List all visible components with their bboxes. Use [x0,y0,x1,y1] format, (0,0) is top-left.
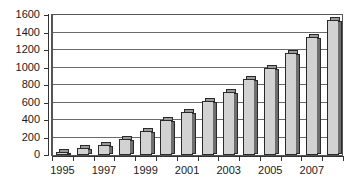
x-axis-tick-mark [73,156,74,161]
bar-slot [219,15,240,155]
bar-side-face [171,121,175,154]
bar-top-face [163,117,173,121]
bar[interactable] [160,120,172,155]
bar[interactable] [285,53,297,155]
y-axis-tick-mark [44,138,49,139]
bar-slot [157,15,178,155]
bar-side-face [151,132,155,154]
y-axis-tick-mark [44,50,49,51]
bar-slot [53,15,74,155]
x-axis-tick-label: 1997 [92,164,116,176]
bar-side-face [130,140,134,154]
x-axis-tick-label: 2003 [216,164,240,176]
x-axis-tick-label: 2001 [175,164,199,176]
bar-slot [136,15,157,155]
bar[interactable] [140,131,152,155]
y-axis-tick-mark [44,33,49,34]
bar-side-face [234,93,238,154]
y-axis-tick-mark [44,155,49,156]
bar-top-face [246,76,256,80]
bar-top-face [309,34,319,38]
y-axis-tick-label: 1600 [16,9,40,20]
bar-top-face [59,149,69,153]
x-axis-tick-label: 2007 [300,164,324,176]
x-axis-tick-mark [260,156,261,161]
bar-side-face [192,113,196,154]
bar-slot [115,15,136,155]
bar-top-face [205,98,215,102]
bar-slot [261,15,282,155]
bar-side-face [109,146,113,155]
bar[interactable] [77,148,89,155]
x-axis-tick-mark [301,156,302,161]
y-axis-tick-mark [44,120,49,121]
bar[interactable] [327,20,339,155]
x-axis-tick-mark [114,156,115,161]
y-axis-tick-label: 0 [34,149,40,160]
bar-top-face [80,145,90,149]
bar[interactable] [56,152,68,156]
bar-top-face [330,17,340,21]
bar[interactable] [98,145,110,156]
bar-slot [302,15,323,155]
x-axis-tick-mark [177,156,178,161]
bar-side-face [296,54,300,154]
y-axis-tick-label: 1000 [16,62,40,73]
x-axis-tick-mark [52,156,53,161]
bar-side-face [67,153,71,155]
x-axis-tick-mark [239,156,240,161]
bar[interactable] [202,101,214,155]
bar-slot [178,15,199,155]
y-axis-tick-label: 400 [22,114,40,125]
x-axis-tick-mark [198,156,199,161]
bar-top-face [267,65,277,69]
x-axis-tick-mark [343,156,344,161]
y-axis-tick-mark [44,103,49,104]
bar-side-face [317,38,321,154]
x-axis-tick-label: 1999 [133,164,157,176]
bar-slot [74,15,95,155]
bar-slot [282,15,303,155]
plot-area [52,14,343,156]
x-axis-tick-label: 2005 [258,164,282,176]
bar-top-face [184,109,194,113]
bar-top-face [143,128,153,132]
bar-slot [95,15,116,155]
bar[interactable] [243,79,255,155]
x-axis-tick-mark [281,156,282,161]
x-axis-tick-mark [218,156,219,161]
x-axis-tick-mark [322,156,323,161]
y-axis-tick-mark [44,85,49,86]
bars-container [53,15,342,155]
x-axis-tick-mark [94,156,95,161]
bar-chart: 02004006008001000120014001600 1995199719… [0,0,352,184]
bar-side-face [213,102,217,154]
x-axis-tick-label: 1995 [50,164,74,176]
bar-side-face [254,80,258,154]
bar-slot [240,15,261,155]
y-axis-tick-label: 600 [22,97,40,108]
bar[interactable] [181,112,193,155]
bar-top-face [226,89,236,93]
bar[interactable] [119,139,131,155]
x-axis-tick-mark [156,156,157,161]
y-axis-tick-label: 1400 [16,27,40,38]
bar-side-face [275,69,279,155]
bar[interactable] [264,68,276,156]
y-axis-tick-label: 800 [22,79,40,90]
bar-slot [323,15,344,155]
y-axis-tick-mark [44,68,49,69]
bar-slot [199,15,220,155]
bar-top-face [288,50,298,54]
y-axis-tick-mark [44,15,49,16]
y-axis-tick-labels: 02004006008001000120014001600 [0,0,44,184]
bar-top-face [122,136,132,140]
bar-side-face [88,149,92,154]
bar-side-face [338,21,342,154]
x-axis-tick-mark [135,156,136,161]
y-axis-tick-label: 200 [22,132,40,143]
bar-top-face [101,142,111,146]
y-axis-tick-label: 1200 [16,44,40,55]
bar[interactable] [223,92,235,155]
bar[interactable] [306,37,318,155]
